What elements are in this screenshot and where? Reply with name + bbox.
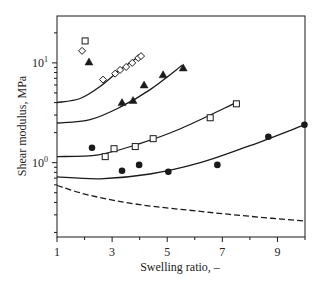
triangle-marker xyxy=(85,58,93,65)
circle-marker xyxy=(165,169,172,176)
triangle-marker xyxy=(140,81,148,88)
circle-marker xyxy=(136,162,143,169)
x-tick-label: 1 xyxy=(54,245,60,259)
triangle-marker xyxy=(118,99,126,106)
circle-marker xyxy=(119,167,126,174)
square-marker xyxy=(150,136,156,142)
curve-fit-diamonds xyxy=(57,55,141,103)
x-tick-label: 7 xyxy=(219,245,225,259)
circle-marker xyxy=(265,133,272,140)
x-tick-label: 3 xyxy=(109,245,115,259)
square-marker xyxy=(102,154,108,160)
triangle-marker xyxy=(159,71,167,78)
diamond-marker xyxy=(129,59,136,66)
x-axis-ticks: 13579 xyxy=(54,237,305,259)
curve-dashed-reference xyxy=(57,186,305,222)
y-axis-label: Shear modulus, MPa xyxy=(15,75,29,176)
circle-marker xyxy=(301,121,308,128)
curve-fit-circles xyxy=(57,125,305,179)
x-axis-label: Swelling ratio, – xyxy=(140,260,221,274)
plot-border xyxy=(57,16,305,237)
square-marker xyxy=(233,101,239,107)
triangle-marker xyxy=(129,96,137,103)
square-marker xyxy=(207,115,213,121)
diamond-marker xyxy=(79,47,86,54)
circle-marker xyxy=(214,162,221,169)
square-marker xyxy=(111,146,117,152)
y-tick-label: 100 xyxy=(32,155,48,170)
x-tick-label: 9 xyxy=(274,245,280,259)
square-marker xyxy=(132,144,138,150)
y-axis-ticks: 100101 xyxy=(32,33,57,233)
shear-modulus-chart: 13579 100101 Swelling ratio, – Shear mod… xyxy=(0,0,320,286)
y-tick-label: 101 xyxy=(32,55,48,70)
x-tick-label: 5 xyxy=(164,245,170,259)
plot-frame xyxy=(57,16,305,237)
square-marker xyxy=(82,38,88,44)
circle-marker xyxy=(89,144,96,151)
curve-fit-squares xyxy=(57,103,236,157)
data-markers xyxy=(79,38,308,175)
